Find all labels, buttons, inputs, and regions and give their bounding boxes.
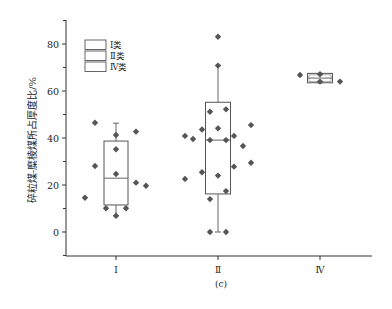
y-tick-label: 20	[47, 180, 59, 191]
y-tick-label: 40	[47, 133, 59, 144]
x-axis: ⅠⅡⅣ	[66, 256, 372, 275]
data-point	[337, 78, 343, 84]
data-point	[231, 133, 237, 139]
y-axis: 020406080	[47, 20, 66, 256]
x-tick-label: Ⅰ	[114, 265, 118, 275]
y-tick-label: 80	[47, 39, 59, 50]
box-plot-chart: 020406080 ⅠⅡⅣ Ⅰ类Ⅱ类Ⅳ类 碎粒煤-糜棱煤所占厚度比/% (c)	[0, 0, 392, 309]
data-point	[103, 205, 109, 211]
data-point	[199, 169, 205, 175]
data-point	[123, 205, 129, 211]
data-point	[133, 128, 139, 134]
data-point	[223, 229, 229, 235]
data-point	[190, 136, 196, 142]
box-group	[82, 120, 149, 219]
data-point	[248, 159, 254, 165]
legend-label: Ⅰ类	[110, 40, 122, 50]
legend-label: Ⅳ类	[110, 62, 128, 72]
data-point	[113, 132, 119, 138]
chart-subtitle: (c)	[215, 279, 227, 289]
data-point	[92, 120, 98, 126]
box-group	[297, 71, 343, 85]
data-point	[215, 62, 221, 68]
box-group	[182, 34, 254, 236]
y-tick-label: 0	[53, 227, 59, 238]
legend-swatch	[85, 40, 106, 50]
data-point	[199, 126, 205, 132]
legend-swatch	[85, 51, 106, 61]
data-point	[92, 163, 98, 169]
data-point	[297, 72, 303, 78]
box-rect	[206, 102, 231, 194]
data-point	[82, 194, 88, 200]
data-point	[240, 143, 246, 149]
y-tick-label: 60	[47, 86, 59, 97]
data-point	[143, 183, 149, 189]
data-point	[207, 196, 213, 202]
data-point	[207, 229, 213, 235]
data-point	[215, 34, 221, 40]
x-tick-label: Ⅱ	[215, 265, 221, 275]
data-point	[113, 213, 119, 219]
data-point	[248, 122, 254, 128]
data-point	[182, 176, 188, 182]
x-tick-label: Ⅳ	[316, 265, 326, 275]
data-point	[182, 133, 188, 139]
legend: Ⅰ类Ⅱ类Ⅳ类	[85, 40, 128, 72]
y-axis-label: 碎粒煤-糜棱煤所占厚度比/%	[26, 77, 38, 203]
legend-swatch	[85, 62, 106, 72]
data-point	[231, 163, 237, 169]
legend-label: Ⅱ类	[110, 51, 125, 61]
data-point	[133, 179, 139, 185]
